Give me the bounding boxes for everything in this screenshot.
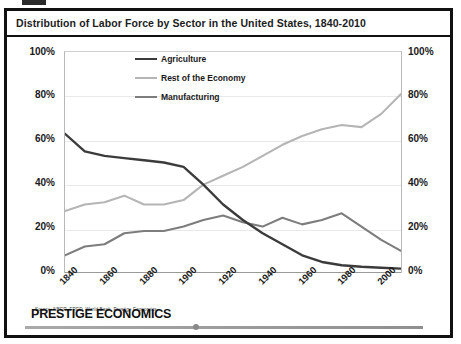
- page-title: Distribution of Labor Force by Sector in…: [7, 17, 366, 29]
- legend-swatch-manufacturing: [135, 96, 157, 99]
- legend-swatch-rest-of-the-economy: [135, 77, 157, 80]
- legend-label-manufacturing: Manufacturing: [161, 92, 220, 102]
- y-axis-right-label-20: 20%: [408, 221, 450, 232]
- y-axis-left-label-0: 0%: [13, 265, 55, 276]
- x-axis-tick-1840: 1840: [57, 264, 80, 287]
- footer: PRESTIGE ECONOMICS: [7, 301, 450, 335]
- line-rest-of-the-economy: [65, 94, 401, 211]
- brand-dot: [193, 324, 199, 330]
- brand-name: PRESTIGE ECONOMICS: [31, 307, 171, 321]
- y-axis-right-label-0: 0%: [408, 265, 450, 276]
- y-axis-left-label-60: 60%: [13, 133, 55, 144]
- y-axis-left-label-40: 40%: [13, 177, 55, 188]
- brand-rule: [25, 326, 423, 329]
- line-agriculture: [65, 134, 401, 269]
- y-axis-left-label-100: 100%: [13, 46, 55, 57]
- chart-title-bar: Distribution of Labor Force by Sector in…: [7, 11, 450, 37]
- y-axis-right-label-40: 40%: [408, 177, 450, 188]
- chart-area: 100% 80% 60% 40% 20% 0% 100% 80% 60% 40%…: [7, 37, 450, 299]
- legend-item-agriculture: Agriculture: [135, 51, 246, 67]
- chart-legend: Agriculture Rest of the Economy Manufact…: [135, 51, 246, 108]
- legend-label-agriculture: Agriculture: [161, 54, 206, 64]
- line-manufacturing: [65, 213, 401, 255]
- legend-label-rest-of-the-economy: Rest of the Economy: [161, 73, 246, 83]
- y-axis-right-label-80: 80%: [408, 89, 450, 100]
- y-axis-left-label-80: 80%: [13, 89, 55, 100]
- legend-swatch-agriculture: [135, 58, 157, 61]
- y-axis-left-label-20: 20%: [13, 221, 55, 232]
- chart-screenshot: Distribution of Labor Force by Sector in…: [0, 0, 461, 344]
- y-axis-right-label-60: 60%: [408, 133, 450, 144]
- legend-item-manufacturing: Manufacturing: [135, 89, 246, 105]
- decorative-nub: [22, 0, 46, 5]
- legend-item-rest-of-the-economy: Rest of the Economy: [135, 70, 246, 86]
- chart-frame: Distribution of Labor Force by Sector in…: [4, 8, 453, 338]
- y-axis-right-label-100: 100%: [408, 46, 450, 57]
